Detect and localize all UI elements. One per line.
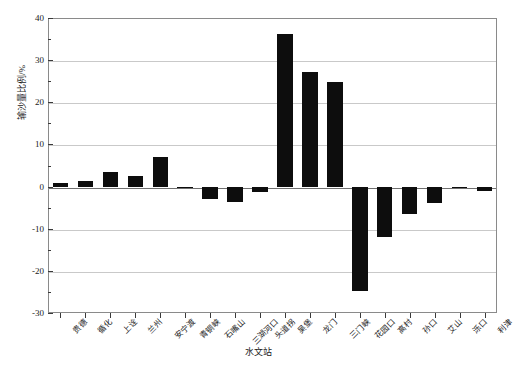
bar [252, 187, 267, 193]
y-axis-tick-label: 30 [35, 55, 44, 65]
x-axis-tick-label: 贵德 [70, 316, 89, 335]
x-axis-tick-label: 循化 [95, 316, 114, 335]
bar [352, 187, 367, 292]
x-axis-title: 水文站 [0, 345, 516, 358]
bar [277, 34, 292, 187]
y-axis-tick-label: 40 [35, 13, 44, 23]
bar [377, 187, 392, 238]
x-axis-tick-label: 吴堡 [295, 316, 314, 335]
bar [327, 82, 342, 187]
x-axis-tick-label: 艾山 [444, 316, 463, 335]
bar [402, 187, 417, 214]
bar [177, 187, 192, 188]
bar [452, 187, 467, 188]
bar [227, 187, 242, 202]
x-axis-tick-label: 石嘴山 [222, 316, 247, 341]
y-axis-tick-label: 0 [40, 182, 45, 192]
x-axis-tick-label: 上诠 [120, 316, 139, 335]
x-axis-tick-label: 花园口 [372, 316, 397, 341]
y-axis-tick-labels: 403020100-10-20-30 [0, 18, 44, 313]
x-axis-tick-label: 高村 [394, 316, 413, 335]
bar [128, 176, 143, 186]
x-axis-tick-label: 青铜峡 [197, 316, 222, 341]
y-axis-tick-label: -10 [32, 224, 44, 234]
bar [202, 187, 217, 200]
x-axis-tick-label: 孙口 [419, 316, 438, 335]
x-axis-tick-label: 泺口 [469, 316, 488, 335]
bar [302, 72, 317, 187]
bar [53, 183, 68, 186]
x-axis-tick-label: 安宁渡 [172, 316, 197, 341]
x-axis-tick-label: 龙门 [320, 316, 339, 335]
y-axis-tick-label: -30 [32, 308, 44, 318]
bar [78, 181, 93, 186]
bar-series [48, 18, 497, 313]
x-axis-tick-label: 三门峡 [347, 316, 372, 341]
y-axis-tick-label: 10 [35, 139, 44, 149]
y-axis-tick-label: -20 [32, 266, 44, 276]
x-axis-tick-label: 兰州 [145, 316, 164, 335]
bar [477, 187, 492, 191]
bar [153, 157, 168, 186]
x-axis-tick-label: 利津 [494, 316, 513, 335]
bar [103, 172, 118, 186]
bar [427, 187, 442, 204]
y-axis-tick-label: 20 [35, 97, 44, 107]
bar-chart: 输沙量比例/% 403020100-10-20-30 贵德循化上诠兰州安宁渡青铜… [0, 0, 516, 374]
